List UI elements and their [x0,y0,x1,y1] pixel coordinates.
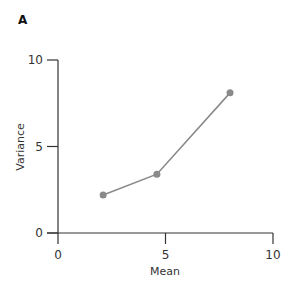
axes [47,60,273,244]
series [100,89,234,198]
chart: A 05100510 Mean Variance [0,0,301,290]
y-tick-label: 0 [35,226,43,240]
x-tick-label: 5 [162,248,170,262]
panel-label: A [18,13,28,27]
x-tick-label: 0 [54,248,62,262]
data-point [153,171,160,178]
y-axis-label: Variance [14,123,27,171]
data-point [100,191,107,198]
series-line [103,93,230,195]
x-axis-label: Mean [150,265,180,278]
y-tick-label: 5 [35,140,43,154]
data-point [227,89,234,96]
x-tick-label: 10 [265,248,280,262]
y-tick-label: 10 [28,53,43,67]
ticks: 05100510 [28,53,281,262]
